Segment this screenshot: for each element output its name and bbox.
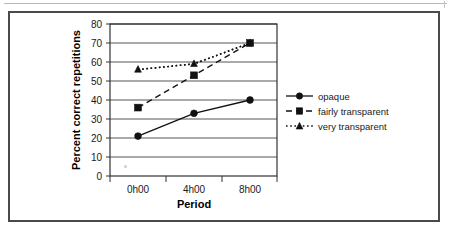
y-tick-label-70: 70 <box>91 38 103 49</box>
y-tick-label-60: 60 <box>91 57 103 68</box>
circle-marker-icon <box>296 93 302 99</box>
figure-frame: 80 70 60 50 40 30 20 10 0 Percent correc… <box>8 11 440 222</box>
triangle-marker-icon <box>296 122 303 129</box>
y-tick-label-20: 20 <box>91 133 103 144</box>
x-tick-label-0h00: 0h00 <box>127 184 150 195</box>
page-top-rule <box>4 3 447 4</box>
series-line-opaque <box>138 100 250 136</box>
data-point-opaque-0h00 <box>135 133 142 140</box>
y-tick-label-80: 80 <box>91 19 103 30</box>
x-axis-title: Period <box>177 198 211 210</box>
square-marker-icon <box>296 108 302 114</box>
x-axis-ticks <box>110 176 277 182</box>
chart-legend: opaque fairly transparent very transpare… <box>286 91 389 132</box>
y-tick-label-50: 50 <box>91 76 103 87</box>
y-tick-label-0: 0 <box>96 171 102 182</box>
legend-label-very-transparent: very transparent <box>318 121 387 132</box>
data-point-fairly-transparent-8h00 <box>247 40 254 47</box>
data-point-very-transparent-0h00 <box>135 66 142 73</box>
x-tick-label-8h00: 8h00 <box>239 184 262 195</box>
data-point-fairly-transparent-0h00 <box>135 104 142 111</box>
page-top-rule-tick <box>444 1 445 8</box>
y-tick-label-10: 10 <box>91 152 103 163</box>
y-axis-title: Percent correct repetitions <box>70 30 82 170</box>
series-opaque <box>135 97 254 140</box>
legend-item-fairly-transparent[interactable]: fairly transparent <box>286 106 389 117</box>
data-point-opaque-4h00 <box>191 110 198 117</box>
line-chart: 80 70 60 50 40 30 20 10 0 Percent correc… <box>10 13 442 224</box>
x-axis-tick-labels: 0h00 4h00 8h00 <box>127 184 262 195</box>
x-tick-label-4h00: 4h00 <box>183 184 206 195</box>
data-point-fairly-transparent-4h00 <box>191 72 198 79</box>
data-point-opaque-8h00 <box>247 97 254 104</box>
y-tick-label-30: 30 <box>91 114 103 125</box>
y-tick-label-40: 40 <box>91 95 103 106</box>
legend-item-opaque[interactable]: opaque <box>286 91 350 102</box>
y-axis-tick-labels: 80 70 60 50 40 30 20 10 0 <box>91 19 103 182</box>
series-very-transparent <box>135 39 254 72</box>
data-point-very-transparent-4h00 <box>191 60 198 67</box>
legend-label-fairly-transparent: fairly transparent <box>318 106 389 117</box>
chart-canvas: 80 70 60 50 40 30 20 10 0 Percent correc… <box>10 13 442 224</box>
scan-artifact-speck <box>124 165 127 168</box>
legend-label-opaque: opaque <box>318 91 350 102</box>
legend-item-very-transparent[interactable]: very transparent <box>286 121 387 132</box>
